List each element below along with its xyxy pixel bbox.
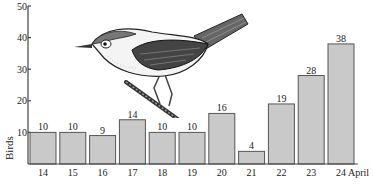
bar bbox=[268, 104, 294, 164]
x-tick-label: 15 bbox=[68, 167, 78, 178]
bird-illustration-icon bbox=[74, 8, 249, 118]
bar-value-label: 28 bbox=[306, 65, 316, 76]
bar-value-label: 38 bbox=[336, 33, 346, 44]
bar bbox=[209, 113, 235, 164]
bar-value-label: 10 bbox=[68, 121, 78, 132]
x-tick-label: 21 bbox=[247, 167, 257, 178]
bar bbox=[298, 76, 324, 164]
bar bbox=[30, 132, 56, 164]
y-tick-label: 50 bbox=[17, 1, 27, 12]
x-tick-label: 18 bbox=[157, 167, 167, 178]
x-tick-label: 24 bbox=[336, 167, 346, 178]
x-axis-unit-label: April bbox=[348, 167, 369, 178]
bar bbox=[179, 132, 205, 164]
bar-value-label: 4 bbox=[249, 140, 254, 151]
y-axis-title: Birds bbox=[3, 136, 15, 160]
bar bbox=[90, 136, 116, 164]
bar-value-label: 19 bbox=[276, 93, 286, 104]
bar bbox=[149, 132, 175, 164]
y-axis: 1020304050 bbox=[17, 1, 31, 165]
bar bbox=[60, 132, 86, 164]
x-tick-label: 17 bbox=[127, 167, 137, 178]
bar-value-label: 10 bbox=[38, 121, 48, 132]
x-tick-label: 23 bbox=[306, 167, 316, 178]
x-tick-label: 22 bbox=[276, 167, 286, 178]
y-tick-label: 30 bbox=[17, 64, 27, 75]
y-tick-label: 20 bbox=[17, 95, 27, 106]
x-tick-label: 19 bbox=[187, 167, 197, 178]
bar bbox=[239, 151, 265, 164]
x-axis: 1415161718192021222324 bbox=[28, 164, 358, 178]
x-tick-label: 14 bbox=[38, 167, 48, 178]
x-tick-label: 20 bbox=[217, 167, 227, 178]
bar-value-label: 10 bbox=[157, 121, 167, 132]
x-tick-label: 16 bbox=[98, 167, 108, 178]
y-tick-label: 40 bbox=[17, 32, 27, 43]
bar bbox=[328, 44, 354, 164]
y-tick-label: 10 bbox=[17, 127, 27, 138]
bar-value-label: 9 bbox=[100, 125, 105, 136]
bar bbox=[119, 120, 145, 164]
bar-value-label: 10 bbox=[187, 121, 197, 132]
